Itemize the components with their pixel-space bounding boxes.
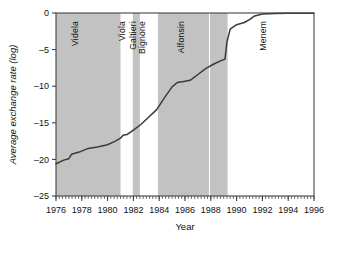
x-axis-label: Year	[175, 221, 194, 232]
regime-band-alfonsin	[158, 13, 228, 196]
x-tick-label: 1978	[72, 205, 92, 215]
y-axis-label: Average exchange rate (log)	[7, 45, 18, 166]
x-tick-label: 1992	[252, 205, 272, 215]
x-tick-label: 1994	[278, 205, 298, 215]
x-tick-label: 1996	[304, 205, 324, 215]
x-tick-label: 1990	[227, 205, 247, 215]
y-tick-label: –5	[39, 45, 49, 55]
y-tick-label: –20	[34, 155, 49, 165]
x-tick-label: 1982	[123, 205, 143, 215]
regime-band-videla	[56, 13, 121, 196]
regime-label-videla: Videla	[70, 21, 80, 46]
y-tick-label: –15	[34, 118, 49, 128]
chart-figure: VidelaViolaGaltieriBignoneAlfonsinMenem0…	[0, 0, 341, 254]
exchange-rate-line-chart: VidelaViolaGaltieriBignoneAlfonsinMenem0…	[0, 0, 341, 254]
regime-label-menem: Menem	[258, 21, 268, 51]
x-tick-label: 1986	[175, 205, 195, 215]
y-tick-label: –10	[34, 81, 49, 91]
regime-label-bignone: Bignone	[137, 21, 147, 54]
x-tick-label: 1984	[149, 205, 169, 215]
x-tick-label: 1976	[46, 205, 66, 215]
x-tick-label: 1980	[98, 205, 118, 215]
regime-label-alfonsin: Alfonsin	[176, 21, 186, 53]
x-tick-label: 1988	[201, 205, 221, 215]
regime-label-viola: Viola	[117, 21, 127, 41]
y-tick-label: 0	[44, 8, 49, 18]
y-tick-label: –25	[34, 191, 49, 201]
